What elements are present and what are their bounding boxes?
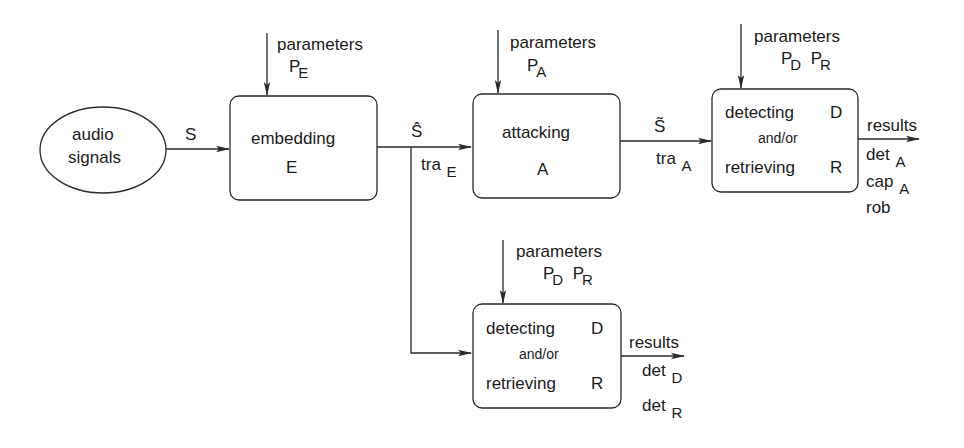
result-det-r: det R [642, 397, 682, 414]
tra-e-label: tra E [421, 156, 457, 173]
detect-top-param-symbols: PD PR [781, 50, 831, 67]
attacking-param-symbol: PA [527, 57, 546, 74]
attacking-title: attacking [502, 124, 570, 141]
detect-bottom-param-symbols: PD PR [543, 265, 593, 282]
attacking-symbol: A [537, 161, 548, 178]
detect-top-line2-symbol: R [830, 159, 842, 176]
s-hat-label: Ŝ [411, 123, 422, 140]
embedding-box [230, 96, 377, 200]
detect-top-line1-symbol: D [830, 104, 842, 121]
s-tilde-label: S̃ [654, 118, 665, 135]
detect-bottom-line1: detecting [486, 320, 555, 337]
tra-a-label: tra A [656, 150, 692, 167]
detect-top-connector: and/or [758, 131, 798, 145]
detect-bottom-line1-symbol: D [591, 320, 603, 337]
detect-top-line2: retrieving [725, 159, 795, 176]
result-rob: rob [866, 199, 891, 216]
result-det-d: det D [642, 362, 682, 379]
result-cap-a: cap A [866, 173, 909, 190]
attacking-params-label: parameters [510, 34, 596, 51]
audio-label: audio [72, 126, 114, 143]
result-det-a: det A [866, 146, 905, 163]
attacking-box [473, 94, 620, 198]
embedding-symbol: E [286, 159, 297, 176]
detect-top-line1: detecting [725, 104, 794, 121]
detect-bottom-connector: and/or [519, 347, 559, 361]
detect-top-params-label: parameters [754, 28, 840, 45]
detect-top-results-label: results [867, 117, 917, 134]
arrow-branch-to-detect [411, 147, 471, 353]
embedding-params-label: parameters [277, 36, 363, 53]
embedding-title: embedding [251, 130, 335, 147]
signal-s-label: S [185, 126, 196, 143]
detect-bottom-results-label: results [629, 334, 679, 351]
signals-label: signals [68, 149, 121, 166]
detect-bottom-line2: retrieving [486, 375, 556, 392]
detect-bottom-params-label: parameters [516, 243, 602, 260]
detect-bottom-line2-symbol: R [591, 375, 603, 392]
embedding-param-symbol: PE [289, 58, 308, 75]
